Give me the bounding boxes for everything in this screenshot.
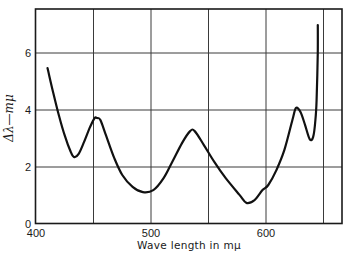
plot-frame [36, 9, 343, 224]
y-tick-labels: 0246 [25, 47, 31, 230]
x-tick-labels: 400500600 [27, 227, 275, 239]
x-tick-label: 500 [142, 227, 160, 239]
x-axis-label: Wave length in mμ [137, 239, 241, 251]
y-tick-label: 6 [25, 47, 31, 59]
chart: 0246 400500600 Wave length in mμ Δλ—mμ [0, 0, 349, 255]
data-line [48, 25, 318, 203]
y-tick-label: 2 [25, 161, 31, 173]
x-tick-label: 600 [257, 227, 275, 239]
y-axis-label: Δλ—mμ [2, 94, 16, 143]
gridlines [36, 9, 342, 224]
y-tick-label: 4 [25, 104, 31, 116]
x-tick-label: 400 [27, 227, 45, 239]
